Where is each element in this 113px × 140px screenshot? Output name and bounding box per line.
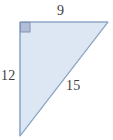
triangle-graphic [0,0,113,140]
label-hypotenuse: 15 [66,79,80,93]
right-triangle-figure: 9 12 15 [0,0,113,140]
label-top-leg: 9 [57,4,64,18]
right-angle-square-icon [21,23,31,33]
label-left-leg: 12 [1,69,15,83]
